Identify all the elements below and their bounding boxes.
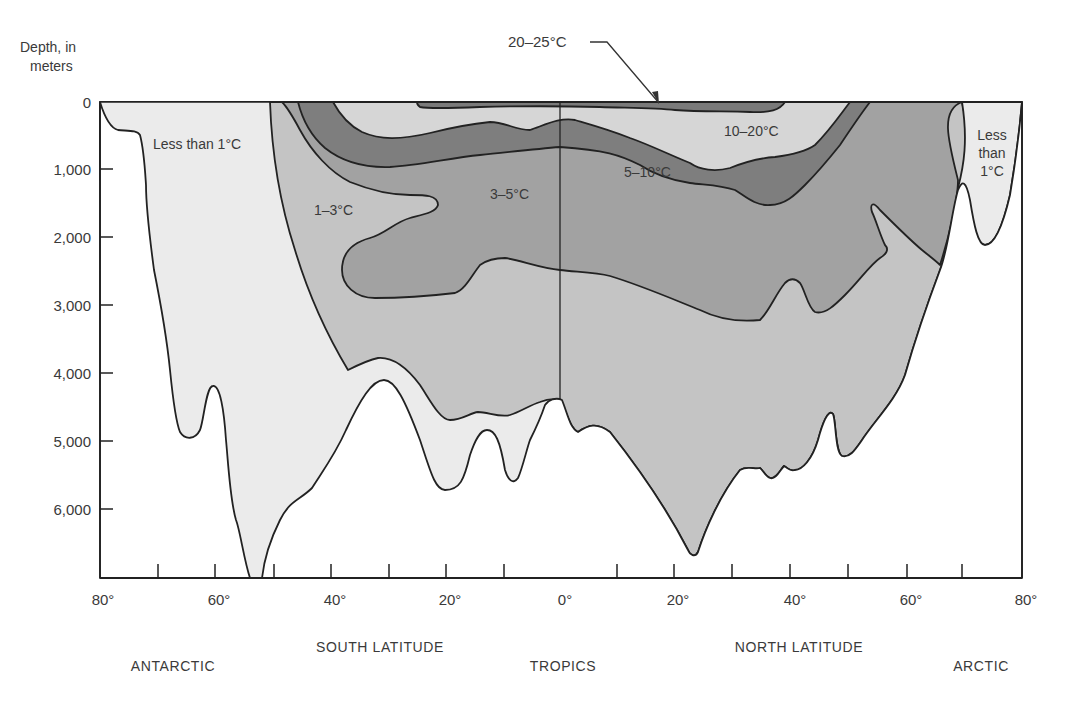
x-tick-label-60s: 60° <box>208 591 231 608</box>
label-less-than-1c-north-line2: than <box>978 145 1005 161</box>
label-5-10c: 5–10°C <box>624 164 671 180</box>
x-tick-label-20s: 20° <box>439 591 462 608</box>
label-20-25c: 20–25°C <box>508 33 567 50</box>
x-tick-label-20n: 20° <box>667 591 690 608</box>
label-less-than-1c-north-line3: 1°C <box>980 163 1004 179</box>
y-axis-label-line2: meters <box>30 58 73 74</box>
x-tick-label-40s: 40° <box>324 591 347 608</box>
label-3-5c: 3–5°C <box>490 186 529 202</box>
annotation-arrow <box>590 42 659 103</box>
y-tick-label-2000: 2,000 <box>53 229 91 246</box>
ocean-temperature-cross-section-chart: Depth, in meters 0 1,000 2,000 3,000 4,0… <box>0 0 1070 701</box>
x-tick-label-0: 0° <box>558 591 572 608</box>
y-tick-label-5000: 5,000 <box>53 433 91 450</box>
y-tick-label-0: 0 <box>83 94 91 111</box>
label-less-than-1c-south: Less than 1°C <box>153 136 241 152</box>
label-10-20c: 10–20°C <box>724 123 779 139</box>
y-axis-label-line1: Depth, in <box>20 39 76 55</box>
x-tick-label-80n: 80° <box>1015 591 1038 608</box>
south-latitude-label: SOUTH LATITUDE <box>316 639 444 655</box>
x-tick-label-80s: 80° <box>92 591 115 608</box>
antarctic-label: ANTARCTIC <box>131 658 215 674</box>
y-tick-label-1000: 1,000 <box>53 161 91 178</box>
label-1-3c: 1–3°C <box>314 202 353 218</box>
tropics-label: TROPICS <box>530 658 596 674</box>
north-latitude-label: NORTH LATITUDE <box>735 639 863 655</box>
y-tick-label-4000: 4,000 <box>53 365 91 382</box>
label-less-than-1c-north-line1: Less <box>977 127 1007 143</box>
x-tick-label-60n: 60° <box>900 591 923 608</box>
arctic-label: ARCTIC <box>953 658 1009 674</box>
x-tick-label-40n: 40° <box>784 591 807 608</box>
y-tick-label-6000: 6,000 <box>53 501 91 518</box>
plot-area <box>100 102 1022 578</box>
y-tick-label-3000: 3,000 <box>53 297 91 314</box>
